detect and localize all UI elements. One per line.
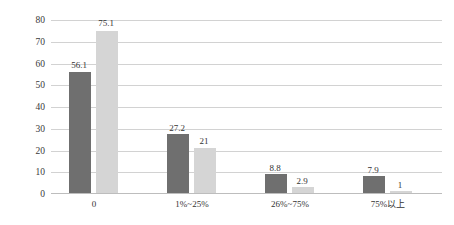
x-tick-label-cat2: 26%~75% — [250, 199, 330, 210]
y-tick-label: 50 — [5, 80, 45, 90]
bar-series2-cat0[interactable] — [96, 31, 118, 193]
bar-series2-cat2[interactable] — [292, 187, 314, 193]
y-tick-label: 70 — [5, 37, 45, 47]
bar-series2-cat3[interactable] — [390, 191, 412, 193]
x-tick-label-cat0: 0 — [54, 199, 134, 210]
value-label-series2-cat1: 21 — [179, 136, 229, 146]
value-label-series2-cat2: 2.9 — [277, 176, 327, 186]
value-label-series1-cat2: 8.8 — [250, 163, 300, 173]
bar-series2-cat1[interactable] — [194, 148, 216, 193]
value-label-series1-cat3: 7.9 — [348, 165, 398, 175]
y-tick-label: 80 — [5, 15, 45, 25]
y-tick-label: 10 — [5, 167, 45, 177]
y-axis-tick-labels: 80 70 60 50 40 30 20 10 0 — [0, 20, 45, 194]
bar-series1-cat0[interactable] — [69, 72, 91, 193]
value-label-series1-cat0: 56.1 — [54, 60, 104, 70]
x-tick-label-cat3: 75%以上 — [348, 199, 428, 210]
value-label-series2-cat0: 75.1 — [81, 18, 131, 28]
bar-chart: 比例(%) 80 70 60 50 40 30 20 10 0 — [0, 0, 454, 225]
x-tick-label-cat1: 1%~25% — [152, 199, 232, 210]
y-tick-label: 0 — [5, 189, 45, 199]
y-tick-label: 30 — [5, 124, 45, 134]
axis-baseline — [51, 193, 442, 194]
y-tick-label: 60 — [5, 59, 45, 69]
value-label-series2-cat3: 1 — [375, 180, 425, 190]
y-tick-label: 20 — [5, 146, 45, 156]
value-label-series1-cat1: 27.2 — [152, 123, 202, 133]
y-tick-label: 40 — [5, 102, 45, 112]
